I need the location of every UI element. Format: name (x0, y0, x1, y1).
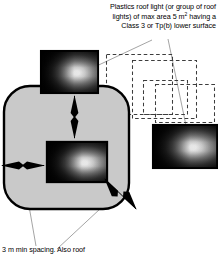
plastics-roof-light-note: Plastics roof light (or group of roof li… (70, 2, 216, 31)
rooflight-top (40, 50, 99, 94)
rooflight-center (46, 141, 108, 183)
note-line-3: Class 3 or Tp(b) lower surface (70, 21, 216, 31)
note-line-1: Plastics roof light (or group of roof (70, 2, 216, 12)
diagram-canvas: Plastics roof light (or group of roof li… (0, 0, 218, 258)
note-line-2-pre: lights) of max area 5 m (113, 12, 185, 21)
note-line-2: lights) of max area 5 m2 having a (70, 12, 216, 22)
diagram-svg (0, 0, 218, 258)
dashed-zone-2 (133, 61, 197, 119)
dashed-zone-3 (144, 81, 188, 115)
rooflight-right (152, 124, 218, 169)
min-spacing-note: 3 m min spacing. Also roof (2, 245, 85, 255)
note-line-2-post: having a (187, 12, 216, 21)
dashed-zone-4 (156, 85, 215, 123)
